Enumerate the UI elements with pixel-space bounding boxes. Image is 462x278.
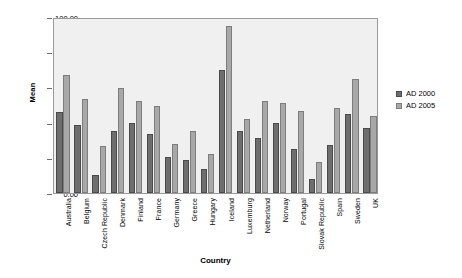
legend-label: AD 2005 [406, 101, 435, 110]
bar [244, 119, 250, 193]
x-axis-tick-label: Luxemburg [246, 198, 253, 234]
bar [237, 131, 243, 193]
x-axis-tick-label: Iceland [228, 198, 235, 221]
bar [190, 131, 196, 193]
bar [118, 88, 124, 193]
x-axis-tick-label: Germany [173, 198, 180, 228]
bar [201, 169, 207, 193]
legend-label: AD 2000 [406, 89, 435, 98]
x-axis-tick-label: Czech Republic [101, 198, 108, 248]
bar [136, 101, 142, 193]
y-axis-tick-mark [47, 18, 52, 19]
bar [291, 149, 297, 193]
x-axis-tick-label: Netherland [264, 198, 271, 233]
bar [63, 75, 69, 193]
legend-swatch [396, 103, 402, 109]
bar [82, 99, 88, 193]
bar [172, 144, 178, 193]
bar [111, 131, 117, 193]
x-axis-tick-label: Finland [137, 198, 144, 222]
bar [345, 114, 351, 193]
y-axis-tick-mark [47, 53, 52, 54]
chart-legend: AD 2000AD 2005 [396, 88, 435, 112]
bar [262, 101, 268, 193]
bar [208, 154, 214, 193]
x-axis-tick-label: Slovak Republic [318, 198, 325, 250]
bars-container [54, 19, 377, 193]
legend-item: AD 2005 [396, 100, 435, 111]
x-axis-tick-label: Greece [191, 198, 198, 222]
bar [334, 108, 340, 193]
bar [363, 128, 369, 193]
x-axis-title: Country [53, 256, 378, 265]
bar [100, 146, 106, 193]
bar [74, 125, 80, 193]
bar [352, 79, 358, 193]
bar [298, 111, 304, 193]
bar [327, 145, 333, 193]
bar [154, 106, 160, 193]
y-axis-tick-mark [47, 88, 52, 89]
x-axis-tick-label: UK [372, 198, 379, 208]
legend-item: AD 2000 [396, 88, 435, 99]
bar [129, 123, 135, 193]
x-axis-tick-label: France [155, 198, 162, 220]
x-axis-tick-label: Spain [336, 198, 343, 216]
bar [255, 138, 261, 193]
bar [370, 116, 376, 193]
bar [92, 175, 98, 193]
x-axis-tick-label: Australia [65, 198, 72, 226]
x-axis-tick-label: Denmark [119, 198, 126, 227]
bar [316, 162, 322, 193]
bar [273, 123, 279, 193]
bar-chart: Mean 0.0020.0040.0060.0080.00100.00 Aust… [0, 0, 462, 278]
x-axis-tick-label: Hungary [209, 198, 216, 225]
y-axis-tick-mark [47, 124, 52, 125]
legend-swatch [396, 91, 402, 97]
x-axis-tick-label: Portugal [300, 198, 307, 225]
x-axis-tick-label: Belgium [83, 198, 90, 224]
bar [280, 103, 286, 193]
bar [165, 157, 171, 193]
plot-area [53, 18, 378, 194]
bar [56, 112, 62, 193]
bar [309, 179, 315, 193]
x-axis-tick-label: Norway [282, 198, 289, 222]
bar [183, 160, 189, 193]
x-axis-tick-label: Sweden [354, 198, 361, 224]
bar [147, 134, 153, 193]
bar [219, 70, 225, 193]
bar [226, 26, 232, 193]
y-axis-tick-mark [47, 159, 52, 160]
y-axis-tick-mark [47, 194, 52, 195]
